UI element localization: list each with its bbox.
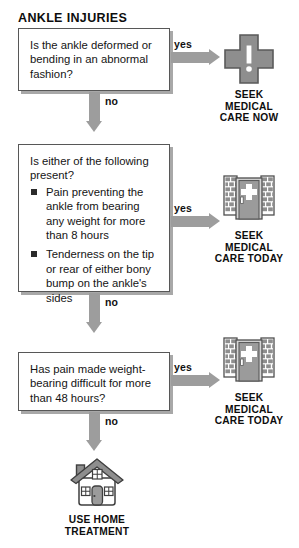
question-box-1[interactable]: Is the ankle deformed or bending in an a… xyxy=(18,28,170,91)
no-arrow-3 xyxy=(89,412,100,450)
outcome-seek-medical-care-today-1[interactable]: SEEK MEDICAL CARE TODAY xyxy=(203,174,295,265)
question-bullet-list-2: Pain preventing the ankle from bearing a… xyxy=(30,185,159,305)
no-label-2: no xyxy=(105,296,118,308)
outcome-label-3: SEEK MEDICAL CARE TODAY xyxy=(203,392,295,427)
ankle-injuries-flowchart: ANKLE INJURIES Is the ankle deformed or … xyxy=(0,0,299,548)
question-text-3: Has pain made weight-bearing difficult f… xyxy=(30,362,159,405)
yes-label-3: yes xyxy=(174,361,192,373)
outcome-label-1: SEEK MEDICAL CARE NOW xyxy=(205,89,293,124)
bullet-text: Tenderness on the tip or rear of either … xyxy=(46,248,154,303)
page-title: ANKLE INJURIES xyxy=(18,11,127,25)
list-item: Pain preventing the ankle from bearing a… xyxy=(30,185,159,243)
clinic-building-icon xyxy=(222,336,276,388)
no-arrow-2 xyxy=(89,293,100,332)
arrow-head xyxy=(86,440,102,451)
arrow-shaft xyxy=(89,412,100,440)
medical-cross-alert-icon xyxy=(223,33,275,85)
square-bullet-icon xyxy=(31,189,37,195)
arrow-shaft xyxy=(89,293,100,322)
question-box-3[interactable]: Has pain made weight-bearing difficult f… xyxy=(18,352,170,411)
no-arrow-1 xyxy=(89,92,100,131)
square-bullet-icon xyxy=(31,251,37,257)
house-home-icon xyxy=(66,455,128,510)
clinic-building-icon xyxy=(222,174,276,226)
yes-label-1: yes xyxy=(174,38,192,50)
outcome-use-home-treatment[interactable]: USE HOME TREATMENT xyxy=(51,455,143,537)
question-text-2: Is either of the following present? xyxy=(30,154,159,183)
question-box-2[interactable]: Is either of the following present? Pain… xyxy=(18,144,170,292)
arrow-head xyxy=(86,322,102,333)
arrow-shaft xyxy=(171,52,209,63)
outcome-label-final: USE HOME TREATMENT xyxy=(51,514,143,537)
outcome-seek-medical-care-today-2[interactable]: SEEK MEDICAL CARE TODAY xyxy=(203,336,295,427)
no-label-3: no xyxy=(105,415,118,427)
question-text-1: Is the ankle deformed or bending in an a… xyxy=(30,38,159,81)
outcome-seek-medical-care-now[interactable]: SEEK MEDICAL CARE NOW xyxy=(205,33,293,124)
arrow-shaft xyxy=(89,92,100,121)
bullet-text: Pain preventing the ankle from bearing a… xyxy=(46,186,145,241)
yes-label-2: yes xyxy=(174,202,192,214)
no-label-1: no xyxy=(105,95,118,107)
outcome-label-2: SEEK MEDICAL CARE TODAY xyxy=(203,230,295,265)
arrow-head xyxy=(86,121,102,132)
